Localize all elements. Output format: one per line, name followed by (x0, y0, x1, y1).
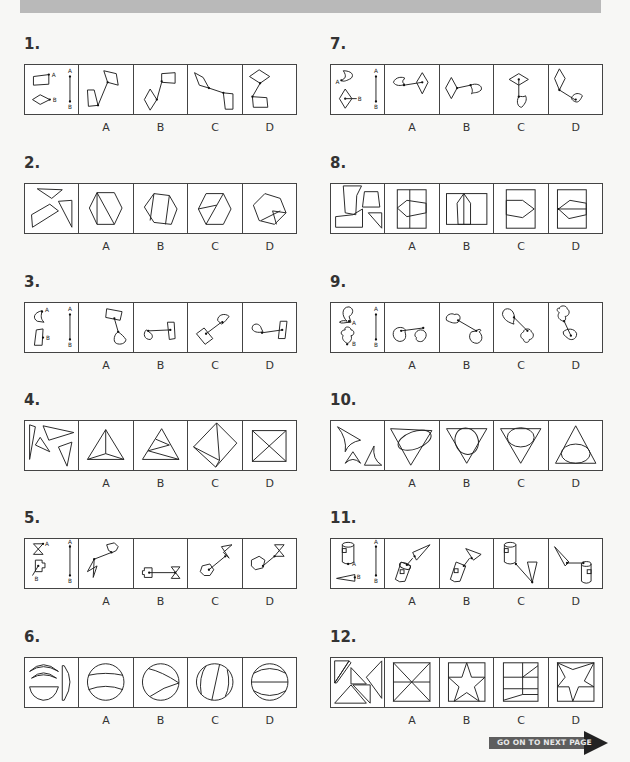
option-a[interactable] (78, 539, 132, 588)
option-b[interactable] (439, 539, 493, 588)
option-c[interactable] (493, 539, 547, 588)
option-label-b: B (133, 121, 188, 134)
question-number: 5. (24, 509, 40, 527)
option-a[interactable] (78, 658, 132, 707)
figure-row (330, 420, 603, 471)
option-b[interactable] (439, 421, 493, 470)
option-label-b: B (439, 359, 494, 372)
header-bar (20, 0, 601, 13)
option-a[interactable] (384, 539, 438, 588)
option-label-d: D (242, 477, 297, 490)
option-b[interactable] (133, 539, 187, 588)
option-d[interactable] (242, 303, 296, 352)
svg-text:B: B (53, 97, 57, 103)
question-number: 6. (24, 628, 40, 646)
figure-row: A B AB (330, 64, 603, 115)
option-b[interactable] (439, 184, 493, 233)
option-d[interactable] (242, 421, 296, 470)
option-labels: A B C D (330, 121, 603, 134)
option-a[interactable] (384, 65, 438, 114)
option-b[interactable] (439, 658, 493, 707)
option-d[interactable] (242, 65, 296, 114)
svg-text:A: A (52, 72, 56, 78)
option-labels: A B C D (24, 477, 297, 490)
option-labels: A B C D (330, 240, 603, 253)
option-a[interactable] (78, 303, 132, 352)
option-c[interactable] (493, 65, 547, 114)
option-d[interactable] (548, 539, 602, 588)
option-d[interactable] (242, 184, 296, 233)
option-b[interactable] (439, 65, 493, 114)
option-label-b: B (439, 595, 494, 608)
option-label-a: A (385, 595, 440, 608)
option-b[interactable] (133, 658, 187, 707)
option-b[interactable] (133, 184, 187, 233)
option-label-c: C (494, 595, 549, 608)
option-c[interactable] (187, 184, 241, 233)
option-d[interactable] (548, 421, 602, 470)
option-d[interactable] (242, 658, 296, 707)
option-label-b: B (133, 240, 188, 253)
option-d[interactable] (548, 658, 602, 707)
option-label-c: C (188, 595, 243, 608)
option-a[interactable] (384, 658, 438, 707)
option-d[interactable] (242, 539, 296, 588)
figure-row (24, 657, 297, 708)
option-d[interactable] (548, 184, 602, 233)
option-label-c: C (188, 477, 243, 490)
option-label-a: A (385, 359, 440, 372)
option-c[interactable] (187, 539, 241, 588)
option-c[interactable] (187, 303, 241, 352)
option-a[interactable] (78, 184, 132, 233)
question-figure: A B AB (331, 303, 384, 352)
option-c[interactable] (493, 303, 547, 352)
question-number: 2. (24, 154, 40, 172)
svg-text:A: A (374, 539, 378, 545)
option-a[interactable] (384, 303, 438, 352)
option-c[interactable] (187, 421, 241, 470)
option-label-c: C (494, 121, 549, 134)
option-label-b: B (439, 121, 494, 134)
option-c[interactable] (493, 658, 547, 707)
option-label-b: B (439, 714, 494, 727)
option-labels: A B C D (24, 714, 297, 727)
option-b[interactable] (133, 65, 187, 114)
option-label-d: D (548, 121, 603, 134)
option-a[interactable] (78, 65, 132, 114)
go-on-to-next-page-banner: GO ON TO NEXT PAGE (489, 733, 629, 753)
option-a[interactable] (384, 184, 438, 233)
option-c[interactable] (187, 658, 241, 707)
svg-text:A: A (68, 539, 72, 545)
option-labels: A B C D (24, 595, 297, 608)
option-a[interactable] (384, 421, 438, 470)
option-label-a: A (79, 240, 134, 253)
svg-text:B: B (352, 341, 356, 347)
svg-text:B: B (357, 574, 361, 580)
figure-row: A B AB (24, 64, 297, 115)
option-label-a: A (79, 477, 134, 490)
next-page-label: GO ON TO NEXT PAGE (497, 738, 592, 747)
svg-text:A: A (374, 306, 378, 312)
option-c[interactable] (493, 421, 547, 470)
svg-text:A: A (352, 320, 356, 326)
option-label-b: B (439, 240, 494, 253)
option-c[interactable] (493, 184, 547, 233)
option-b[interactable] (439, 303, 493, 352)
question-figure (331, 658, 384, 707)
option-d[interactable] (548, 303, 602, 352)
option-d[interactable] (548, 65, 602, 114)
figure-row (24, 183, 297, 234)
option-c[interactable] (187, 65, 241, 114)
option-label-a: A (385, 240, 440, 253)
option-label-d: D (548, 714, 603, 727)
option-b[interactable] (133, 421, 187, 470)
option-label-c: C (188, 121, 243, 134)
option-label-d: D (548, 359, 603, 372)
option-label-d: D (548, 477, 603, 490)
svg-text:A: A (45, 307, 49, 313)
option-b[interactable] (133, 303, 187, 352)
option-labels: A B C D (24, 359, 297, 372)
svg-text:B: B (358, 96, 362, 102)
svg-text:A: A (68, 68, 72, 74)
option-a[interactable] (78, 421, 132, 470)
